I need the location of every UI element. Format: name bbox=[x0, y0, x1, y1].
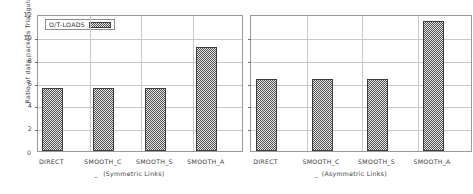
x-axis-tick-symmetric-smooth_c: SMOOTH_C bbox=[84, 158, 121, 165]
tickmark-y-8 bbox=[248, 62, 251, 63]
legend-swatch-ot-loads bbox=[89, 22, 111, 28]
x-axis-tick-asymmetric-smooth_s: SMOOTH_S bbox=[358, 158, 395, 165]
y-axis-zero-label: 0 bbox=[27, 149, 31, 156]
gridline-x-1 bbox=[90, 16, 91, 151]
gridline-x-3 bbox=[193, 16, 194, 151]
x-axis-tick-symmetric-direct: DIRECT bbox=[39, 158, 64, 165]
bar-symmetric-smooth_c bbox=[93, 88, 114, 151]
tickmark-y-2 bbox=[248, 130, 251, 131]
bar-asymmetric-smooth_s bbox=[367, 79, 388, 151]
tickmark-y-6 bbox=[35, 85, 38, 86]
gridline-y-10 bbox=[38, 39, 242, 40]
tickmark-y-2 bbox=[35, 130, 38, 131]
tickmark-y-4 bbox=[35, 107, 38, 108]
tickmark-y-10 bbox=[248, 39, 251, 40]
y-axis-tick-12: 12 bbox=[18, 11, 32, 19]
bar-symmetric-direct bbox=[42, 88, 63, 151]
x-axis-tick-asymmetric-smooth_a: SMOOTH_A bbox=[413, 158, 450, 165]
x-axis-tick-symmetric-smooth_a: SMOOTH_A bbox=[187, 158, 224, 165]
plot-panel-symmetric: O/T-LOADS bbox=[37, 15, 243, 152]
tickmark-y-4 bbox=[248, 107, 251, 108]
tickmark-y-10 bbox=[35, 39, 38, 40]
x-axis-tick-asymmetric-smooth_c: SMOOTH_C bbox=[302, 158, 339, 165]
plot-panel-asymmetric bbox=[250, 15, 472, 152]
bar-chart-figure: Ratio of data packets Triangulated (%) 2… bbox=[0, 0, 473, 194]
bar-symmetric-smooth_s bbox=[145, 88, 166, 151]
gridline-x-2 bbox=[141, 16, 142, 151]
gridline-x-3 bbox=[418, 16, 419, 151]
x-axis-tick-symmetric-smooth_s: SMOOTH_S bbox=[136, 158, 173, 165]
legend-label-ot-loads: O/T-LOADS bbox=[49, 21, 85, 28]
y-axis-tick-10: 10 bbox=[18, 34, 32, 42]
x-axis-tick-asymmetric-direct: DIRECT bbox=[253, 158, 278, 165]
gridline-x-2 bbox=[362, 16, 363, 151]
legend: O/T-LOADS bbox=[45, 19, 115, 30]
bar-asymmetric-smooth_a bbox=[423, 21, 444, 151]
y-axis-tick-6: 6 bbox=[18, 80, 32, 88]
gridline-x-1 bbox=[307, 16, 308, 151]
bar-asymmetric-direct bbox=[256, 79, 277, 151]
bar-asymmetric-smooth_c bbox=[312, 79, 333, 151]
y-axis-tick-column: 24681012 bbox=[14, 0, 32, 194]
x-axis-dash-mark-asymmetric: _ bbox=[315, 170, 318, 177]
x-axis-group-label-symmetric: (Symmetric Links) bbox=[103, 170, 164, 177]
x-axis-dash-mark-symmetric: _ bbox=[94, 170, 97, 177]
y-axis-tick-4: 4 bbox=[18, 102, 32, 110]
y-axis-tick-8: 8 bbox=[18, 57, 32, 65]
x-axis-group-label-asymmetric: (Asymmetric Links) bbox=[322, 170, 387, 177]
bar-symmetric-smooth_a bbox=[196, 47, 217, 151]
tickmark-y-8 bbox=[35, 62, 38, 63]
y-axis-tick-2: 2 bbox=[18, 125, 32, 133]
tickmark-y-6 bbox=[248, 85, 251, 86]
